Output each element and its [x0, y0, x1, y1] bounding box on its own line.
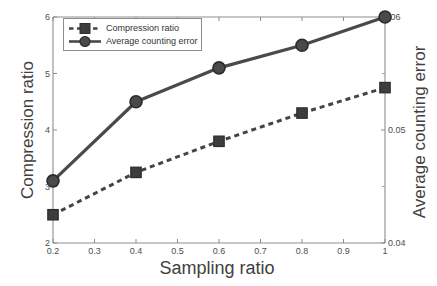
x-tick-label: 0.3 — [88, 246, 101, 256]
data-point-marker-circle — [213, 62, 225, 74]
left-y-tick-label: 2 — [37, 238, 50, 248]
x-tick-label: 0.5 — [171, 246, 184, 256]
legend-item-average-counting-error: Average counting error — [68, 34, 197, 47]
x-tick-label: 0.8 — [296, 246, 309, 256]
right-y-tick-label: 0.04 — [388, 238, 406, 248]
right-y-axis-title: Average counting error — [410, 22, 430, 242]
x-tick-label: 0.7 — [254, 246, 267, 256]
chart-figure: 0.20.30.40.50.60.70.80.91234560.040.05.0… — [0, 0, 437, 286]
right-y-tick-label: .06 — [388, 12, 401, 22]
x-tick-label: 1 — [382, 246, 387, 256]
x-tick-label: 0.6 — [213, 246, 226, 256]
data-point-marker-square — [380, 82, 390, 92]
legend-label: Average counting error — [106, 36, 197, 46]
left-y-tick-label: 6 — [37, 12, 50, 22]
x-tick-label: 0.4 — [130, 246, 143, 256]
right-y-axis-ticks — [381, 17, 385, 243]
left-y-tick-label: 4 — [37, 125, 50, 135]
legend: Compression ratio Average counting error — [63, 18, 202, 51]
x-tick-label: 0.9 — [337, 246, 350, 256]
left-y-tick-label: 3 — [37, 182, 50, 192]
left-y-axis-title: Compression ratio — [18, 30, 38, 230]
data-point-marker-square — [48, 210, 58, 220]
right-y-tick-label: 0.05 — [388, 125, 406, 135]
legend-swatch-solid-circle — [68, 34, 102, 47]
data-point-marker-square — [214, 136, 224, 146]
data-point-marker-circle — [296, 39, 308, 51]
data-point-marker-square — [131, 167, 141, 177]
data-point-marker-square — [297, 108, 307, 118]
left-y-tick-label: 5 — [37, 69, 50, 79]
data-point-marker-circle — [130, 96, 142, 108]
legend-item-compression-ratio: Compression ratio — [68, 21, 197, 34]
series-1 — [48, 82, 390, 220]
legend-swatch-dashed-square — [68, 21, 102, 34]
legend-label: Compression ratio — [106, 23, 179, 33]
x-axis-title: Sampling ratio — [52, 258, 382, 279]
